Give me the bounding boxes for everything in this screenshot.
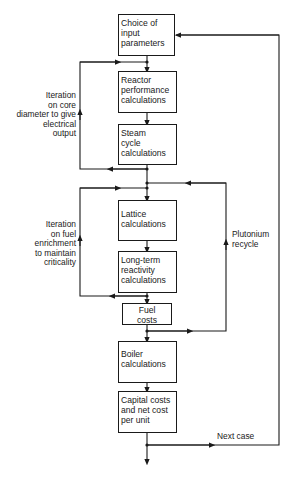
box-label: Long-term reactivity calculations [121,255,174,285]
box-steam-cycle: Steam cycle calculations [118,124,177,165]
box-label: Steam cycle calculations [121,128,174,158]
box-label: Fuel costs [125,305,169,325]
box-label: Capital costs and net cost per unit [121,395,174,425]
box-boiler: Boiler calculations [118,341,177,383]
box-reactor-performance: Reactor performance calculations [118,71,177,113]
box-fuel-costs: Fuel costs [122,303,172,325]
box-label: Choice of input parameters [121,18,172,48]
box-label: Lattice calculations [121,209,174,229]
box-label: Boiler calculations [121,349,174,369]
label-next-case: Next case [217,432,254,442]
box-label: Reactor performance calculations [121,75,174,105]
label-core-iteration: Iteration on core diameter to give elect… [4,91,76,139]
box-long-term-reactivity: Long-term reactivity calculations [118,251,177,293]
box-capital-costs: Capital costs and net cost per unit [118,391,177,433]
box-lattice: Lattice calculations [118,200,177,241]
label-plutonium-recycle: Plutonium recycle [232,230,269,249]
box-input-parameters: Choice of input parameters [118,14,175,56]
label-enrichment-iteration: Iteration on fuel enrichment to maintain… [4,220,76,268]
